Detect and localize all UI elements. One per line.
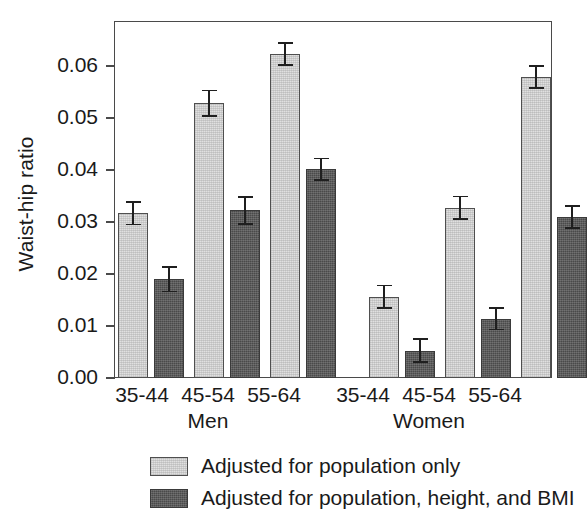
error-bar-cap-bottom: [489, 329, 504, 331]
x-tick-label-women-45-54: 45-54: [391, 383, 467, 407]
bar-men-55to64-light: [270, 54, 300, 378]
x-tick-label-men-45-54: 45-54: [170, 383, 246, 407]
x-tick-label-men-35-44: 35-44: [104, 383, 180, 407]
error-bar-stem: [495, 307, 497, 330]
y-tick-label-002: 0.02: [57, 261, 98, 285]
error-bar-stem: [459, 196, 461, 220]
error-bar-stem: [320, 158, 322, 181]
error-bar-cap-top: [453, 196, 468, 198]
bar-men-35to44-light: [118, 213, 148, 378]
error-bar-cap-top: [278, 42, 293, 44]
legend-swatch-dark-gray: [150, 489, 188, 508]
bar-men-45to54-dark: [230, 210, 260, 378]
error-bar-women-45to54-light: [453, 196, 468, 220]
y-tick-label-005: 0.05: [57, 105, 98, 129]
bars-layer: [114, 21, 552, 378]
error-bar-stem: [244, 196, 246, 225]
bar-women-45to54-light: [445, 208, 475, 378]
error-bar-cap-bottom: [529, 87, 544, 89]
error-bar-cap-top: [314, 158, 329, 160]
bar-men-45to54-light: [194, 103, 224, 378]
error-bar-stem: [132, 201, 134, 225]
legend-swatch-light-gray: [150, 457, 188, 476]
error-bar-cap-top: [238, 196, 253, 198]
y-tick-label-000: 0.00: [57, 365, 98, 389]
error-bar-stem: [571, 205, 573, 229]
error-bar-cap-bottom: [202, 115, 217, 117]
error-bar-men-45to54-dark: [238, 196, 253, 225]
error-bar-men-55to64-dark: [314, 158, 329, 181]
error-bar-cap-top: [162, 266, 177, 268]
error-bar-cap-top: [202, 90, 217, 92]
bar-men-35to44-dark: [154, 279, 184, 378]
error-bar-stem: [419, 338, 421, 362]
legend-label-population-only: Adjusted for population only: [201, 454, 460, 478]
bar-women-35to44-light: [369, 297, 399, 378]
error-bar-stem: [383, 285, 385, 309]
x-tick-label-women-55-64: 55-64: [457, 383, 533, 407]
error-bar-cap-top: [413, 338, 428, 340]
error-bar-cap-top: [565, 205, 580, 207]
error-bar-stem: [208, 90, 210, 117]
x-tick-label-men-55-64: 55-64: [236, 383, 312, 407]
error-bar-stem: [284, 42, 286, 66]
group-label-women: Women: [391, 409, 467, 433]
error-bar-cap-bottom: [162, 291, 177, 293]
error-bar-men-35to44-dark: [162, 266, 177, 292]
error-bar-stem: [535, 65, 537, 89]
error-bar-cap-bottom: [238, 223, 253, 225]
y-tick-label-004: 0.04: [57, 157, 98, 181]
bar-women-55to64-dark: [557, 217, 587, 378]
y-tick-label-003: 0.03: [57, 209, 98, 233]
error-bar-women-55to64-dark: [565, 205, 580, 229]
error-bar-women-55to64-light: [529, 65, 544, 89]
error-bar-cap-bottom: [413, 361, 428, 363]
error-bar-cap-top: [489, 307, 504, 309]
error-bar-women-35to44-dark: [413, 338, 428, 362]
group-label-men: Men: [170, 409, 246, 433]
error-bar-cap-top: [377, 285, 392, 287]
error-bar-cap-top: [126, 201, 141, 203]
error-bar-men-55to64-light: [278, 42, 293, 66]
error-bar-cap-bottom: [377, 307, 392, 309]
bar-women-55to64-light: [521, 77, 551, 378]
error-bar-women-45to54-dark: [489, 307, 504, 330]
error-bar-cap-bottom: [278, 64, 293, 66]
error-bar-cap-bottom: [453, 218, 468, 220]
y-axis-title: Waist-hip ratio: [14, 104, 38, 304]
legend-label-population-height-bmi: Adjusted for population, height, and BMI: [201, 486, 575, 510]
x-tick-label-women-35-44: 35-44: [325, 383, 401, 407]
error-bar-cap-bottom: [565, 227, 580, 229]
error-bar-men-35to44-light: [126, 201, 141, 225]
y-tick-label-001: 0.01: [57, 313, 98, 337]
y-tick-label-006: 0.06: [57, 53, 98, 77]
bar-men-55to64-dark: [306, 169, 336, 378]
error-bar-stem: [168, 266, 170, 292]
error-bar-women-35to44-light: [377, 285, 392, 309]
legend-item-population-only: Adjusted for population only: [150, 454, 460, 478]
error-bar-cap-bottom: [126, 224, 141, 226]
legend-item-population-height-bmi: Adjusted for population, height, and BMI: [150, 486, 575, 510]
error-bar-cap-bottom: [314, 179, 329, 181]
error-bar-cap-top: [529, 65, 544, 67]
error-bar-men-45to54-light: [202, 90, 217, 117]
